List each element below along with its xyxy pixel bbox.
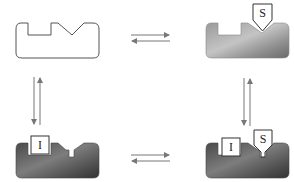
inhibitor-marker: I — [31, 136, 49, 154]
equilibrium-diagram: S I I S — [0, 0, 294, 182]
substrate-label: S — [260, 132, 267, 146]
equilibrium-arrow-es-esi — [244, 78, 250, 126]
enzyme-substrate-complex: S — [206, 4, 289, 58]
equilibrium-arrow-ei-esi — [131, 155, 170, 161]
enzyme-inhibitor-complex: I — [16, 136, 99, 178]
inhibitor-marker: I — [222, 138, 240, 156]
enzyme-free — [16, 23, 99, 58]
enzyme-substrate-inhibitor-complex: I S — [206, 130, 289, 178]
equilibrium-arrow-e-ei — [34, 77, 40, 125]
substrate-label: S — [259, 6, 266, 20]
equilibrium-arrow-e-es — [131, 35, 170, 41]
inhibitor-label: I — [229, 140, 233, 154]
inhibitor-label: I — [38, 138, 42, 152]
